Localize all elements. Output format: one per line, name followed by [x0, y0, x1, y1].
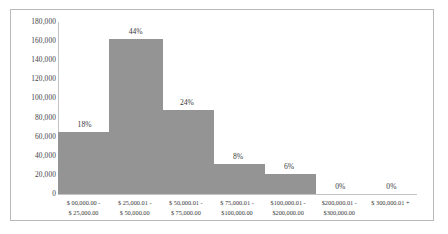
- x-axis-category-label: $ 00,000.00 -$ 25,000.00: [58, 198, 109, 217]
- x-axis-category-line: $ 25,000.00: [58, 208, 109, 218]
- y-axis-tick-label: 40,000: [12, 152, 56, 160]
- bar[interactable]: [109, 39, 163, 194]
- x-axis-category-line: $ 50,000.01 -: [160, 198, 211, 208]
- bar-value-label: 6%: [284, 162, 294, 171]
- plot-area: 18%44%24%8%6%0%0%: [59, 22, 417, 194]
- bar-slot: 0%: [366, 22, 417, 194]
- x-axis-category-label: $ 50,000.01 -$ 75,000.00: [160, 198, 211, 217]
- bar-value-label: 0%: [386, 182, 396, 191]
- x-axis-category-line: $ 50,000.00: [109, 208, 160, 218]
- x-axis-category-line: $100,000.00: [211, 208, 262, 218]
- y-axis-tick-label: 80,000: [12, 114, 56, 122]
- y-axis-tick-label: 60,000: [12, 133, 56, 141]
- bar-slot: 6%: [264, 22, 315, 194]
- x-axis-category-line: $100,000.01 -: [263, 198, 314, 208]
- chart-frame: 180,000160,000140,000120,000100,00080,00…: [10, 9, 434, 221]
- bar-value-label: 8%: [233, 152, 243, 161]
- y-axis: 180,000160,000140,000120,000100,00080,00…: [11, 22, 56, 195]
- x-axis-category-line: $200,000.01 -: [314, 198, 365, 208]
- y-axis-tick-label: 20,000: [12, 171, 56, 179]
- x-axis-category-line: $ 75,000.01 -: [211, 198, 262, 208]
- x-axis-category-line: $ 00,000.00 -: [58, 198, 109, 208]
- bar-value-label: 24%: [180, 98, 194, 107]
- bar-slot: 0%: [315, 22, 366, 194]
- x-axis-category-label: $100,000.01 -$200,000.00: [263, 198, 314, 217]
- x-axis-category-label: $ 300,000.01 +: [365, 198, 416, 208]
- x-axis-category-label: $ 25,000.01 -$ 50,000.00: [109, 198, 160, 217]
- y-axis-tick-label: 120,000: [12, 75, 56, 83]
- x-axis-category-line: $ 300,000.01 +: [365, 198, 416, 208]
- y-axis-tick-label: 180,000: [12, 18, 56, 26]
- bar-slot: 8%: [212, 22, 263, 194]
- x-axis-category-label: $ 75,000.01 -$100,000.00: [211, 198, 262, 217]
- bar-slot: 44%: [110, 22, 161, 194]
- bar-value-label: 44%: [129, 27, 143, 36]
- bar[interactable]: [262, 174, 316, 194]
- y-axis-tick-label: 160,000: [12, 37, 56, 45]
- x-axis-category-line: $ 75,000.00: [160, 208, 211, 218]
- bar-value-label: 18%: [78, 120, 92, 129]
- bar-value-label: 0%: [335, 182, 345, 191]
- x-axis-category-line: $ 25,000.01 -: [109, 198, 160, 208]
- bar[interactable]: [211, 164, 265, 194]
- y-axis-tick-label: 100,000: [12, 94, 56, 102]
- y-axis-tick-label: 0: [12, 190, 56, 198]
- x-axis-category-label: $200,000.01 -$300,000.00: [314, 198, 365, 217]
- bar[interactable]: [58, 132, 112, 194]
- x-axis-category-line: $200,000.00: [263, 208, 314, 218]
- category-axis-line: [58, 194, 417, 195]
- bar[interactable]: [160, 110, 214, 194]
- x-axis: $ 00,000.00 -$ 25,000.00$ 25,000.01 -$ 5…: [58, 198, 417, 222]
- x-axis-category-line: $300,000.00: [314, 208, 365, 218]
- bar-slot: 24%: [161, 22, 212, 194]
- bar-slot: 18%: [59, 22, 110, 194]
- y-axis-tick-label: 140,000: [12, 56, 56, 64]
